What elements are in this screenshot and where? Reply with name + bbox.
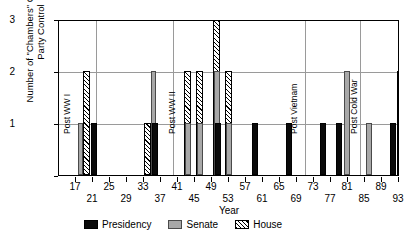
x-tick-label-53: 53 <box>215 193 241 204</box>
x-tick-mark-69 <box>296 177 297 182</box>
era-separator-3 <box>305 21 306 175</box>
x-tick-mark-45 <box>194 177 195 182</box>
bar-senate-1949 <box>197 123 203 175</box>
annotation-post-ww1: Post WW I <box>62 94 72 134</box>
annotation-post-cold-war: Post Cold War <box>349 80 359 134</box>
bar-senate-1995 <box>398 123 399 175</box>
legend-item-senate: Senate <box>168 219 218 230</box>
era-separator-4 <box>360 21 361 175</box>
x-tick-mark-93 <box>398 177 399 182</box>
bar-presidency-1993 <box>390 123 396 175</box>
bar-presidency-1921 <box>91 123 97 175</box>
bar-house-1931 <box>144 123 151 175</box>
x-tick-label-85: 85 <box>351 193 377 204</box>
bar-presidency-1977 <box>320 123 326 175</box>
x-tick-label-69: 69 <box>283 193 309 204</box>
x-tick-label-33: 33 <box>130 181 156 192</box>
bar-presidency-1933 <box>152 123 158 175</box>
legend-label-house: House <box>253 219 282 230</box>
x-tick-label-89: 89 <box>368 181 394 192</box>
x-tick-label-57: 57 <box>232 181 258 192</box>
y-tick-mark-0 <box>54 176 58 177</box>
chart-root: Number of "Chambers" Changing Party Cont… <box>0 0 416 242</box>
x-tick-mark-37 <box>160 177 161 182</box>
x-tick-label-65: 65 <box>266 181 292 192</box>
legend-item-presidency: Presidency <box>84 219 151 230</box>
chart-legend: Presidency Senate House <box>84 219 294 230</box>
x-tick-mark-21 <box>92 177 93 182</box>
bar-house-1919 <box>83 71 90 175</box>
legend-swatch-presidency <box>84 220 98 229</box>
x-tick-label-21: 21 <box>79 193 105 204</box>
x-tick-mark-85 <box>364 177 365 182</box>
legend-label-senate: Senate <box>186 219 218 230</box>
x-tick-label-49: 49 <box>198 181 224 192</box>
bar-senate-1947 <box>185 123 191 175</box>
x-tick-label-93: 93 <box>385 193 411 204</box>
x-tick-label-77: 77 <box>317 193 343 204</box>
x-tick-label-25: 25 <box>96 181 122 192</box>
x-tick-mark-53 <box>228 177 229 182</box>
legend-label-presidency: Presidency <box>102 219 151 230</box>
bar-senate-1987 <box>366 123 372 175</box>
y-tick-label-2: 2 <box>0 66 15 77</box>
x-tick-label-37: 37 <box>147 193 173 204</box>
x-tick-label-17: 17 <box>62 181 88 192</box>
x-tick-mark-61 <box>262 177 263 182</box>
plot-area: Post WW I Post WW II Post Vietnam Post C… <box>58 20 399 176</box>
legend-item-house: House <box>235 219 282 230</box>
y-axis-title: Number of "Chambers" Changing Party Cont… <box>24 0 48 112</box>
x-axis-title: Year <box>199 205 259 216</box>
legend-swatch-senate <box>168 220 182 229</box>
x-tick-label-81: 81 <box>334 181 360 192</box>
legend-swatch-house <box>235 220 249 229</box>
annotation-post-ww2: Post WW II <box>167 92 177 135</box>
x-tick-mark-77 <box>330 177 331 182</box>
bar-presidency-1961 <box>252 123 258 175</box>
bar-presidency-1981 <box>336 123 342 175</box>
x-tick-label-45: 45 <box>181 193 207 204</box>
x-tick-mark-29 <box>126 177 127 182</box>
x-tick-label-29: 29 <box>113 193 139 204</box>
annotation-post-vietnam: Post Vietnam <box>289 84 299 134</box>
y-tick-label-3: 3 <box>0 14 15 25</box>
x-tick-label-73: 73 <box>300 181 326 192</box>
y-tick-label-1: 1 <box>0 118 15 129</box>
bar-presidency-1953 <box>215 123 221 175</box>
x-tick-label-41: 41 <box>164 181 190 192</box>
x-tick-label-61: 61 <box>249 193 275 204</box>
bar-senate-1955 <box>226 123 232 175</box>
